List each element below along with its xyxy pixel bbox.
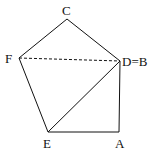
segment-fd-dashed [19,58,120,61]
label-f: F [5,51,12,66]
label-c: C [62,3,71,18]
label-e: E [43,136,51,151]
label-d-equals-b: D=B [122,54,148,69]
segment-ad [119,61,120,132]
segment-fe [19,58,48,132]
label-a: A [115,136,125,151]
pentagon-diagram: C F D=B E A [0,0,154,155]
segment-cf [19,19,67,58]
segment-cd [67,19,120,61]
segment-ed [48,61,120,132]
